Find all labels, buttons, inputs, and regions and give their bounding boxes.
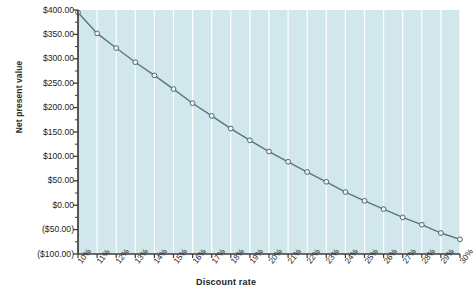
x-tick-label: 21% <box>286 247 303 265</box>
x-tick-label: 17% <box>210 247 227 265</box>
x-tick-label: 29% <box>439 247 456 265</box>
x-tick-label: 10% <box>76 247 93 265</box>
x-tick-label: 14% <box>152 247 169 265</box>
x-tick-label: 12% <box>114 247 131 265</box>
x-tick-label: 11% <box>95 248 112 266</box>
x-axis-tick-labels: 10%11%12%13%14%15%16%17%18%19%20%21%22%2… <box>0 0 476 294</box>
npv-discount-rate-chart: Net present value $400.00$350.00$300.00$… <box>0 0 476 294</box>
x-tick-label: 18% <box>229 247 246 265</box>
x-tick-label: 16% <box>191 247 208 265</box>
x-tick-label: 23% <box>324 247 341 265</box>
x-tick-label: 27% <box>401 247 418 265</box>
x-axis-title: Discount rate <box>196 277 256 287</box>
x-tick-label: 26% <box>382 247 399 265</box>
x-tick-label: 13% <box>133 247 150 265</box>
x-tick-label: 22% <box>305 247 322 265</box>
x-tick-label: 24% <box>343 247 360 265</box>
x-tick-label: 25% <box>363 247 380 265</box>
x-tick-label: 20% <box>267 247 284 265</box>
x-tick-label: 19% <box>248 247 265 265</box>
x-tick-label: 28% <box>420 247 437 265</box>
x-tick-label: 15% <box>172 247 189 265</box>
x-tick-label: 30% <box>458 247 475 265</box>
